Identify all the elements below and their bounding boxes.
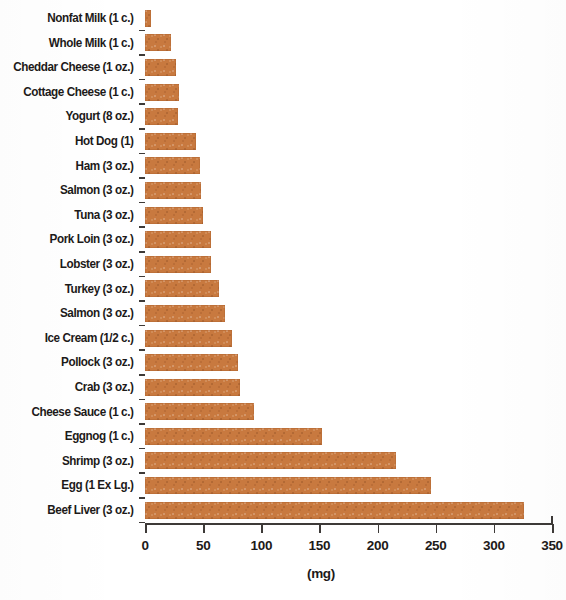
bar-row bbox=[145, 424, 555, 449]
bar-row bbox=[145, 6, 555, 31]
category-tick bbox=[139, 423, 145, 425]
value-axis-tick-label: 0 bbox=[141, 538, 148, 553]
bar bbox=[145, 34, 171, 51]
category-tick bbox=[139, 30, 145, 32]
bar-row bbox=[145, 55, 555, 80]
value-axis-tick-label: 350 bbox=[541, 538, 563, 553]
axis-title: (mg) bbox=[0, 566, 566, 581]
bar bbox=[145, 403, 254, 420]
value-axis-tick bbox=[319, 524, 321, 533]
category-tick bbox=[139, 349, 145, 351]
bar bbox=[145, 428, 322, 445]
bar-row bbox=[145, 301, 555, 326]
category-label: Shrimp (3 oz.) bbox=[10, 449, 140, 474]
bar-row bbox=[145, 154, 555, 179]
bar-row bbox=[145, 498, 555, 523]
bar-row bbox=[145, 449, 555, 474]
category-tick bbox=[139, 448, 145, 450]
category-label: Turkey (3 oz.) bbox=[10, 277, 140, 302]
category-tick bbox=[139, 472, 145, 474]
category-tick bbox=[139, 300, 145, 302]
bar bbox=[145, 452, 396, 469]
category-tick bbox=[139, 128, 145, 130]
bar bbox=[145, 354, 238, 371]
value-axis-tick-label: 150 bbox=[309, 538, 331, 553]
axis-title-text: (mg) bbox=[307, 566, 335, 581]
category-label: Cheddar Cheese (1 oz.) bbox=[10, 55, 140, 80]
bar bbox=[145, 133, 196, 150]
category-label: Ice Cream (1/2 c.) bbox=[10, 326, 140, 351]
bar-row bbox=[145, 400, 555, 425]
category-label: Whole Milk (1 c.) bbox=[10, 31, 140, 56]
value-axis-tick bbox=[145, 524, 147, 533]
category-tick bbox=[139, 276, 145, 278]
category-label: Tuna (3 oz.) bbox=[10, 203, 140, 228]
category-tick bbox=[139, 54, 145, 56]
bar bbox=[145, 477, 431, 494]
bar bbox=[145, 157, 200, 174]
category-tick bbox=[139, 497, 145, 499]
category-tick bbox=[139, 79, 145, 81]
category-tick bbox=[139, 202, 145, 204]
value-axis-tick bbox=[436, 524, 438, 533]
category-label: Nonfat Milk (1 c.) bbox=[10, 6, 140, 31]
bar-row bbox=[145, 129, 555, 154]
category-tick bbox=[139, 374, 145, 376]
category-label: Beef Liver (3 oz.) bbox=[10, 498, 140, 523]
category-label: Egg (1 Ex Lg.) bbox=[10, 473, 140, 498]
value-axis-line bbox=[145, 523, 552, 525]
bar bbox=[145, 207, 203, 224]
value-axis-tick-label: 250 bbox=[425, 538, 447, 553]
category-label: Salmon (3 oz.) bbox=[10, 301, 140, 326]
bar-row bbox=[145, 350, 555, 375]
value-axis-tick bbox=[203, 524, 205, 533]
category-label: Ham (3 oz.) bbox=[10, 154, 140, 179]
bar-row bbox=[145, 326, 555, 351]
bar bbox=[145, 59, 176, 76]
plot-area bbox=[145, 6, 555, 523]
bar-row bbox=[145, 178, 555, 203]
value-axis-tick bbox=[552, 524, 554, 533]
category-label: Cottage Cheese (1 c.) bbox=[10, 80, 140, 105]
category-tick bbox=[139, 399, 145, 401]
bar bbox=[145, 231, 211, 248]
category-tick bbox=[139, 103, 145, 105]
bar bbox=[145, 305, 225, 322]
category-label: Pollock (3 oz.) bbox=[10, 350, 140, 375]
category-tick bbox=[139, 177, 145, 179]
bar bbox=[145, 379, 240, 396]
bar-row bbox=[145, 473, 555, 498]
category-label: Hot Dog (1) bbox=[10, 129, 140, 154]
category-axis-labels: Nonfat Milk (1 c.)Whole Milk (1 c.)Chedd… bbox=[0, 6, 140, 522]
category-tick bbox=[139, 251, 145, 253]
value-axis-tick bbox=[494, 524, 496, 533]
bar bbox=[145, 10, 151, 27]
value-axis-tick bbox=[378, 524, 380, 533]
value-axis-tick-label: 50 bbox=[196, 538, 210, 553]
category-label: Lobster (3 oz.) bbox=[10, 252, 140, 277]
bar bbox=[145, 256, 211, 273]
value-axis-tick bbox=[261, 524, 263, 533]
bar-row bbox=[145, 277, 555, 302]
bar bbox=[145, 330, 232, 347]
category-label: Yogurt (8 oz.) bbox=[10, 104, 140, 129]
value-axis-tick-label: 300 bbox=[483, 538, 505, 553]
bar bbox=[145, 84, 179, 101]
value-axis-tick-label: 100 bbox=[250, 538, 272, 553]
bar-row bbox=[145, 104, 555, 129]
cholesterol-bar-chart: Nonfat Milk (1 c.)Whole Milk (1 c.)Chedd… bbox=[0, 0, 566, 600]
bar-row bbox=[145, 31, 555, 56]
category-label: Crab (3 oz.) bbox=[10, 375, 140, 400]
bar-row bbox=[145, 375, 555, 400]
bar bbox=[145, 108, 178, 125]
category-tick bbox=[139, 325, 145, 327]
bar-row bbox=[145, 203, 555, 228]
category-label: Salmon (3 oz.) bbox=[10, 178, 140, 203]
bar-row bbox=[145, 227, 555, 252]
bar bbox=[145, 280, 219, 297]
bar bbox=[145, 182, 201, 199]
category-label: Eggnog (1 c.) bbox=[10, 424, 140, 449]
category-label: Cheese Sauce (1 c.) bbox=[10, 400, 140, 425]
bar-row bbox=[145, 252, 555, 277]
category-label: Pork Loin (3 oz.) bbox=[10, 227, 140, 252]
